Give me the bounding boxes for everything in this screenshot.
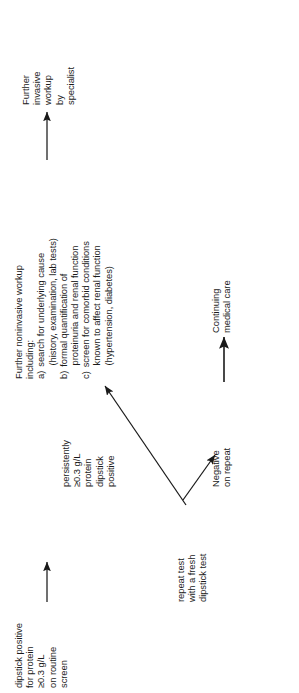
flowchart-canvas: Further invasive workup by specialist Fu… [0, 0, 299, 693]
workup-item-c: c)screen for comorbid conditions [80, 238, 91, 379]
workup-item-c-marker: c) [80, 371, 91, 379]
workup-item-a-cont: (history, examination, lab tests) [47, 238, 58, 379]
screen-line-2: for protein [24, 623, 35, 688]
node-repeat-test: repeat test with a fresh dipstick test [175, 554, 209, 602]
edge-repeat-to-workup [105, 386, 186, 505]
workup-item-a-cont-text: (history, examination, lab tests) [47, 238, 58, 365]
workup-subheading: including: [24, 238, 35, 379]
persistent-line-2: ≥0.3 g/L [71, 440, 82, 487]
workup-item-b-cont: proteinuria and renal function [69, 238, 80, 379]
screen-line-1: dipstick positive [13, 623, 24, 688]
workup-item-b-cont-text: proteinuria and renal function [69, 246, 80, 366]
node-continuing-medical-care: Continuing medical care [210, 280, 232, 333]
node-further-invasive-workup: Further invasive workup by specialist [20, 67, 76, 105]
negative-line-1: Negative [210, 448, 221, 487]
workup-item-a-text: search for underlying cause [35, 253, 46, 371]
workup-item-b-text: formal quantification of [58, 274, 69, 371]
node-further-noninvasive-workup: Further noninvasive workup including: a)… [13, 238, 114, 379]
screen-line-5: screen [58, 623, 69, 688]
workup-item-c-cont2: (hypertension, diabetes) [103, 238, 114, 379]
workup-item-c-cont2-text: (hypertension, diabetes) [103, 266, 114, 365]
persistent-line-3: protein [82, 440, 93, 487]
workup-item-c-cont: known to affect renal function [91, 238, 102, 379]
continuing-line-2: medical care [221, 280, 232, 333]
persistent-line-5: positive [105, 440, 116, 487]
invasive-line-2: invasive [31, 67, 42, 105]
persistent-line-1: persistently [60, 440, 71, 487]
screen-line-3: ≥0.3 g/L [35, 623, 46, 688]
screen-line-4: on routine [47, 623, 58, 688]
repeat-line-1: repeat test [175, 554, 186, 602]
node-initial-screen: dipstick positive for protein ≥0.3 g/L o… [13, 623, 69, 688]
invasive-line-3: workup [42, 67, 53, 105]
workup-item-a-marker: a) [35, 371, 46, 379]
negative-line-2: on repeat [221, 448, 232, 487]
invasive-line-1: Further [20, 67, 31, 105]
repeat-line-3: dipstick test [197, 554, 208, 602]
workup-heading: Further noninvasive workup [13, 238, 24, 379]
continuing-line-1: Continuing [210, 280, 221, 333]
invasive-line-5: specialist [65, 67, 76, 105]
persistent-line-4: dipstick [94, 440, 105, 487]
node-persistently-positive: persistently ≥0.3 g/L protein dipstick p… [60, 440, 116, 487]
workup-item-a: a)search for underlying cause [35, 238, 46, 379]
workup-item-c-cont-text: known to affect renal function [91, 245, 102, 365]
workup-item-c-text: screen for comorbid conditions [80, 241, 91, 371]
invasive-line-4: by [54, 67, 65, 105]
workup-item-b: b)formal quantification of [58, 238, 69, 379]
repeat-line-2: with a fresh [186, 554, 197, 602]
node-negative-on-repeat: Negative on repeat [210, 448, 232, 487]
workup-item-b-marker: b) [58, 371, 69, 379]
